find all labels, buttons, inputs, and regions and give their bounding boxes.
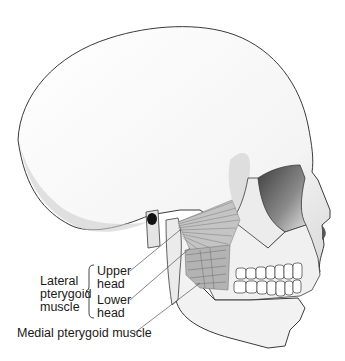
label-lower-head: Lower head	[97, 294, 131, 320]
label-line: head	[97, 307, 131, 320]
label-lateral-pterygoid: Lateral pterygoid muscle	[40, 275, 91, 314]
label-line: Medial pterygoid muscle	[17, 327, 152, 340]
label-line: muscle	[40, 301, 91, 314]
label-medial-pterygoid: Medial pterygoid muscle	[17, 327, 152, 340]
label-line: head	[97, 278, 131, 291]
nasal-aperture	[322, 225, 326, 240]
label-upper-head: Upper head	[97, 265, 131, 291]
ear-canal	[147, 213, 157, 225]
